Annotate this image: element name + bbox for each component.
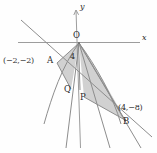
- point-label-O: O: [73, 31, 80, 40]
- geometry-figure: O (−2,−2) A (4,−8) B Q P 4 y x: [0, 0, 157, 153]
- diagram-canvas: [0, 0, 157, 153]
- point-label-P: P: [80, 93, 86, 102]
- x-axis-label: x: [142, 34, 147, 42]
- point-coord-B: (4,−8): [118, 104, 142, 112]
- y-axis-label: y: [80, 3, 85, 11]
- point-label-A: A: [47, 56, 53, 65]
- point-coord-A: (−2,−2): [3, 57, 34, 65]
- point-marker-O: [78, 42, 80, 44]
- point-label-Q: Q: [64, 85, 71, 94]
- line-AB: [21, 20, 152, 137]
- point-label-B: B: [123, 117, 129, 126]
- segment-length-label: 4: [70, 53, 75, 61]
